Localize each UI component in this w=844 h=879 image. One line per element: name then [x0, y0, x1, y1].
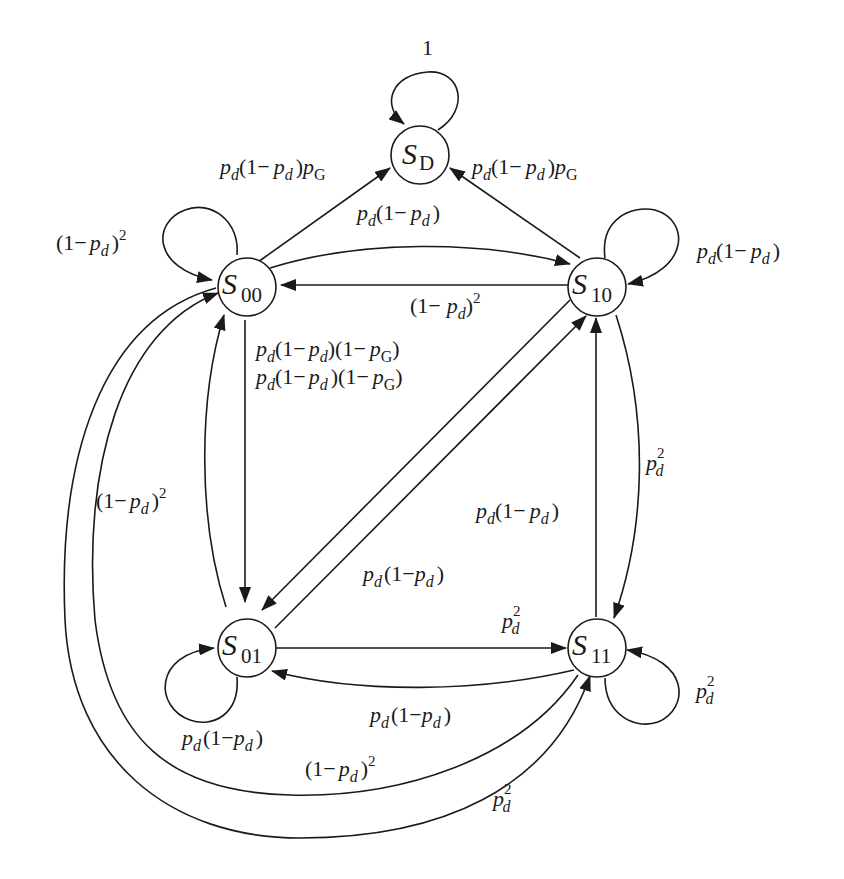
edge-s11-to-s01 [272, 670, 574, 687]
node-sd: SD [391, 126, 449, 184]
label-s01-self: pd(1−pd) [180, 725, 263, 754]
label-s11-self: p2d [694, 673, 715, 707]
label-s01-to-s10: pd(1−pd) [361, 561, 444, 590]
edge-s10-to-sd [450, 168, 580, 258]
label-s11-to-s10: pd(1−pd) [474, 498, 559, 527]
label-s00-self: (1−pd)2 [56, 227, 127, 259]
label-s10-self: pd(1−pd) [695, 238, 780, 267]
label-s10-to-s00: (1−pd)2 [410, 290, 481, 322]
label-s00-to-s11: p2d [491, 781, 512, 815]
edge-s00-to-s10 [270, 246, 570, 268]
node-s01: S01 [218, 619, 276, 677]
edge-s01-to-s00 [205, 315, 226, 607]
label-s01-to-s00: (1−pd)2 [96, 485, 167, 517]
label-s01-to-s11: p2d [500, 603, 521, 637]
node-s10: S10 [568, 258, 626, 316]
label-s11-to-s01: pd(1−pd) [368, 702, 451, 731]
label-s00-to-s01: pd(1−pd)(1−pG) [254, 336, 400, 365]
label-s10-to-sd: pd(1−pd)pG [470, 154, 578, 183]
node-s00: S00 [218, 258, 276, 316]
edge-s10-to-s11 [614, 315, 639, 618]
label-s10-to-s01: pd(1−pd)(1−pG) [254, 364, 403, 393]
label-s10-to-s11: p2d [644, 445, 665, 479]
state-diagram: SD S00 S10 S01 S11 1 pd(1−pd)pG pd(1−pd)… [0, 0, 844, 879]
label-s00-to-sd: pd(1−pd)pG [218, 154, 326, 183]
node-s11: S11 [568, 619, 626, 677]
label-s11-to-s00: (1−pd)2 [305, 753, 376, 785]
label-sd-self: 1 [422, 35, 433, 60]
edge-sd-self-loop [392, 72, 459, 130]
label-s00-to-s10: pd(1−pd) [355, 200, 440, 229]
